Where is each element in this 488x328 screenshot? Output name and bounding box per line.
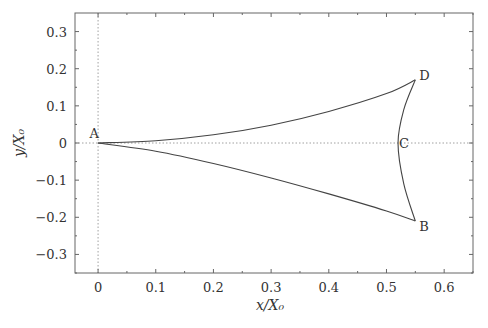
y-tick-label: 0 xyxy=(59,136,67,151)
y-tick-label: −0.3 xyxy=(35,247,67,262)
reference-lines xyxy=(75,13,473,273)
y-tick-label: 0.1 xyxy=(46,99,67,114)
y-tick-label: 0.3 xyxy=(46,25,67,40)
y-tick-label: −0.1 xyxy=(35,173,67,188)
y-tick-label: −0.2 xyxy=(35,210,67,225)
point-label-d: D xyxy=(419,68,429,83)
x-tick-label: 0.4 xyxy=(318,280,339,295)
x-tick-label: 0.6 xyxy=(434,280,455,295)
x-tick-label: 0 xyxy=(94,280,102,295)
x-tick-label: 0.1 xyxy=(145,280,166,295)
axis-ticks: 00.10.20.30.40.50.6−0.3−0.2−0.100.10.20.… xyxy=(35,13,473,295)
curves xyxy=(98,80,415,221)
x-tick-label: 0.5 xyxy=(376,280,397,295)
curve-a-b xyxy=(98,143,415,221)
point-label-b: B xyxy=(419,219,429,234)
x-tick-label: 0.2 xyxy=(203,280,224,295)
point-label-c: C xyxy=(399,136,409,151)
y-axis-label: y/X₀ xyxy=(11,129,27,159)
x-tick-label: 0.3 xyxy=(261,280,282,295)
x-axis-label: x/X₀ xyxy=(256,297,285,313)
curve-a-d xyxy=(98,80,415,143)
chart: 00.10.20.30.40.50.6−0.3−0.2−0.100.10.20.… xyxy=(0,0,488,328)
point-label-a: A xyxy=(88,126,99,141)
y-tick-label: 0.2 xyxy=(46,62,67,77)
